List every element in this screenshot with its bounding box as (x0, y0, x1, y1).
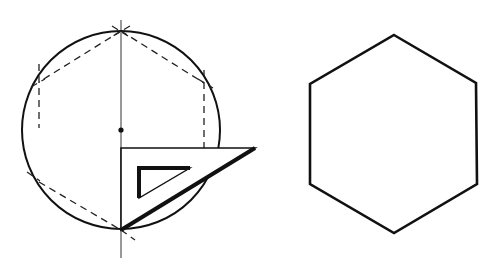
construction-drawing (22, 20, 255, 258)
hexagon-construction-diagram (0, 0, 501, 270)
dashed-edge (39, 31, 121, 82)
dashed-tick (121, 230, 135, 240)
result-hexagon (310, 35, 477, 233)
dashed-edge (39, 182, 121, 230)
dashed-construction-ticks (27, 26, 213, 240)
dashed-edge (121, 31, 204, 83)
center-point (118, 127, 123, 132)
